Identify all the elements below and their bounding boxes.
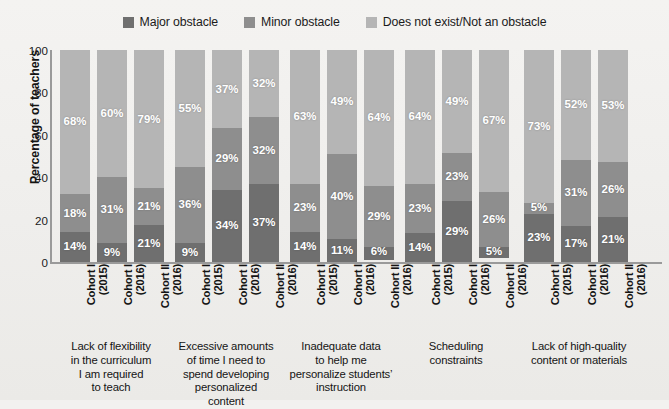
bar-segment-minor[interactable]: 31%: [97, 177, 127, 243]
bar-segment-none[interactable]: 52%: [561, 50, 591, 160]
legend-swatch-icon: [244, 17, 255, 28]
bar-segment-major[interactable]: 11%: [327, 239, 357, 262]
stacked-bar[interactable]: 32%32%37%: [249, 50, 279, 262]
stacked-bar[interactable]: 49%40%11%: [327, 50, 357, 262]
category-caption-line: Inadequate data: [278, 340, 404, 354]
stacked-bar[interactable]: 63%23%14%: [290, 50, 320, 262]
stacked-bar[interactable]: 64%29%6%: [364, 50, 394, 262]
bar-segment-value-label: 32%: [253, 78, 276, 89]
bar-segment-minor[interactable]: 26%: [479, 192, 509, 247]
bar-segment-minor[interactable]: 23%: [405, 184, 435, 232]
bar-segment-minor[interactable]: 5%: [524, 203, 554, 213]
bar-segment-minor[interactable]: 21%: [134, 188, 164, 225]
stacked-bar[interactable]: 68%18%14%: [60, 50, 90, 262]
bar-segment-minor[interactable]: 18%: [60, 194, 90, 232]
bar-segment-value-label: 52%: [565, 99, 588, 110]
bar-segment-none[interactable]: 79%: [134, 50, 164, 188]
cohort-name: Cohort II: [159, 264, 171, 308]
bar-segment-none[interactable]: 64%: [405, 50, 435, 184]
bar-segment-major[interactable]: 17%: [561, 226, 591, 262]
bar-segment-major[interactable]: 9%: [175, 243, 205, 262]
bar-segment-major[interactable]: 29%: [442, 201, 472, 262]
bar-segment-major[interactable]: 21%: [134, 225, 164, 262]
category-caption-line: content or materials: [512, 354, 646, 368]
bar-segment-major[interactable]: 5%: [479, 247, 509, 258]
stacked-bar[interactable]: 49%23%29%: [442, 50, 472, 262]
legend-item[interactable]: Major obstacle: [123, 15, 219, 29]
bar-segment-none[interactable]: 55%: [175, 50, 205, 167]
stacked-bar[interactable]: 67%26%5%: [479, 50, 509, 262]
bar-segment-value-label: 53%: [602, 100, 625, 111]
stacked-bar[interactable]: 55%36%9%: [175, 50, 205, 262]
category-caption-line: content: [163, 395, 289, 409]
plot-area: 68%18%14%60%31%9%79%21%21%55%36%9%37%29%…: [52, 50, 662, 262]
bar-segment-none[interactable]: 49%: [442, 50, 472, 153]
cohort-axis-label: Cohort I(2016): [586, 264, 610, 330]
legend-item[interactable]: Minor obstacle: [244, 15, 340, 29]
cohort-year: (2015): [327, 264, 339, 330]
category-caption: Lack of flexibilityin the curriculumI am…: [48, 340, 174, 395]
cohort-name: Cohort II: [623, 264, 635, 308]
stacked-bar[interactable]: 60%31%9%: [97, 50, 127, 262]
bar-segment-none[interactable]: 53%: [598, 50, 628, 162]
stacked-bar[interactable]: 53%26%21%: [598, 50, 628, 262]
stacked-bar[interactable]: 64%23%14%: [405, 50, 435, 262]
stacked-bar[interactable]: 79%21%21%: [134, 50, 164, 262]
bar-group: 63%23%14%49%40%11%64%29%6%: [290, 50, 394, 262]
bar-segment-minor[interactable]: 29%: [364, 186, 394, 247]
stacked-bar[interactable]: 52%31%17%: [561, 50, 591, 262]
bar-segment-value-label: 64%: [409, 111, 432, 122]
bar-segment-value-label: 31%: [565, 187, 588, 198]
bar-segment-value-label: 23%: [446, 171, 469, 182]
bar-segment-minor[interactable]: 29%: [212, 128, 242, 189]
bar-segment-major[interactable]: 21%: [598, 217, 628, 262]
bar-segment-major[interactable]: 9%: [97, 243, 127, 262]
bar-group: 55%36%9%37%29%34%32%32%37%: [175, 50, 279, 262]
cohort-name: Cohort I: [200, 264, 212, 305]
bar-segment-major[interactable]: 14%: [60, 232, 90, 262]
category-caption-line: in the curriculum: [48, 354, 174, 368]
cohort-axis-label: Cohort I(2015): [85, 264, 109, 330]
bar-segment-value-label: 23%: [294, 202, 317, 213]
bar-segment-minor[interactable]: 31%: [561, 160, 591, 226]
stacked-bar[interactable]: 37%29%34%: [212, 50, 242, 262]
y-axis-tick-label: 40: [14, 171, 48, 184]
bar-segment-minor[interactable]: 23%: [290, 184, 320, 233]
category-caption-line: constraints: [393, 354, 519, 368]
bar-segment-major[interactable]: 37%: [249, 184, 279, 262]
bar-segment-major[interactable]: 14%: [290, 232, 320, 262]
cohort-name: Cohort I: [85, 264, 97, 305]
bar-segment-value-label: 26%: [483, 214, 506, 225]
cohort-label-row: Cohort I(2015)Cohort I(2016)Cohort II(20…: [290, 266, 394, 332]
category-caption: Lack of high-qualitycontent or materials: [512, 340, 646, 368]
bar-segment-none[interactable]: 60%: [97, 50, 127, 177]
cohort-name: Cohort I: [122, 264, 134, 305]
chart-legend: Major obstacleMinor obstacleDoes not exi…: [0, 8, 669, 36]
bar-segment-none[interactable]: 64%: [364, 50, 394, 186]
bar-segment-none[interactable]: 49%: [327, 50, 357, 154]
bar-segment-none[interactable]: 32%: [249, 50, 279, 117]
bar-segment-minor[interactable]: 23%: [442, 153, 472, 201]
bar-segment-major[interactable]: 23%: [524, 214, 554, 262]
cohort-name: Cohort I: [467, 264, 479, 305]
bar-segment-none[interactable]: 63%: [290, 50, 320, 184]
bar-segment-minor[interactable]: 32%: [249, 117, 279, 184]
category-caption-line: of time I need to: [163, 354, 289, 368]
bar-segment-value-label: 31%: [101, 204, 124, 215]
bar-segment-none[interactable]: 67%: [479, 50, 509, 192]
bar-segment-none[interactable]: 68%: [60, 50, 90, 194]
bar-segment-minor[interactable]: 40%: [327, 154, 357, 239]
bar-segment-value-label: 26%: [602, 184, 625, 195]
bar-segment-major[interactable]: 34%: [212, 190, 242, 262]
bar-segment-minor[interactable]: 36%: [175, 167, 205, 243]
bar-segment-none[interactable]: 73%: [524, 50, 554, 203]
legend-item[interactable]: Does not exist/Not an obstacle: [366, 15, 547, 29]
bar-segment-major[interactable]: 14%: [405, 233, 435, 262]
bar-segment-value-label: 49%: [331, 96, 354, 107]
cohort-name: Cohort II: [274, 264, 286, 308]
bar-segment-none[interactable]: 37%: [212, 50, 242, 128]
bar-segment-major[interactable]: 6%: [364, 247, 394, 260]
bar-segment-minor[interactable]: 26%: [598, 162, 628, 217]
cohort-label-row: Cohort I(2015)Cohort I(2016)Cohort II(20…: [175, 266, 279, 332]
stacked-bar[interactable]: 73%5%23%: [524, 50, 554, 262]
